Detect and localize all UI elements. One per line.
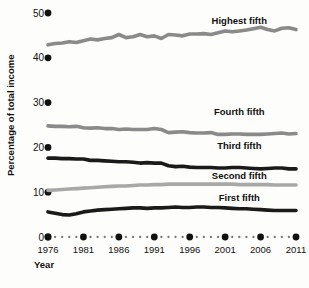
y-tick-dot <box>45 99 52 106</box>
x-minor-dot <box>288 236 290 238</box>
x-axis-tick-labels: 19761981198619911996200120062011 <box>37 244 306 255</box>
series-line <box>48 126 296 135</box>
x-minor-dot <box>181 236 183 238</box>
x-major-dot <box>151 234 158 241</box>
series-line <box>48 27 296 44</box>
x-axis-title: Year <box>34 259 54 270</box>
x-axis-dotted-baseline <box>45 234 300 241</box>
series-label: Third fifth <box>217 140 262 151</box>
x-minor-dot <box>196 236 198 238</box>
x-minor-dot <box>252 236 254 238</box>
x-minor-dot <box>111 236 113 238</box>
x-minor-dot <box>167 236 169 238</box>
y-axis-title: Percentage of total income <box>5 55 16 176</box>
x-minor-dot <box>267 236 269 238</box>
series-label: Fourth fifth <box>214 106 265 117</box>
series-label: Highest fifth <box>212 15 268 26</box>
x-major-dot <box>257 234 264 241</box>
x-major-dot <box>293 234 300 241</box>
x-major-dot <box>80 234 87 241</box>
x-minor-dot <box>210 236 212 238</box>
series-line <box>48 158 296 169</box>
x-tick-label: 1981 <box>73 244 94 255</box>
x-minor-dot <box>61 236 63 238</box>
x-tick-label: 2001 <box>215 244 236 255</box>
x-minor-dot <box>231 236 233 238</box>
series-line <box>48 184 296 190</box>
x-tick-label: 2011 <box>286 244 306 255</box>
x-minor-dot <box>104 236 106 238</box>
x-minor-dot <box>146 236 148 238</box>
x-minor-dot <box>245 236 247 238</box>
y-tick-dot <box>45 10 52 17</box>
series-labels-group: Highest fifthFourth fifthThird fifthSeco… <box>212 15 268 203</box>
x-minor-dot <box>174 236 176 238</box>
series-label: First fifth <box>219 192 260 203</box>
x-minor-dot <box>274 236 276 238</box>
x-minor-dot <box>238 236 240 238</box>
x-minor-dot <box>160 236 162 238</box>
x-minor-dot <box>217 236 219 238</box>
x-tick-label: 2006 <box>250 244 271 255</box>
y-tick-dot <box>45 144 52 151</box>
x-major-dot <box>186 234 193 241</box>
x-minor-dot <box>75 236 77 238</box>
x-tick-label: 1991 <box>144 244 165 255</box>
x-major-dot <box>115 234 122 241</box>
x-tick-label: 1996 <box>179 244 200 255</box>
y-tick-label: 0 <box>38 232 44 243</box>
y-tick-dot <box>45 54 52 61</box>
x-tick-label: 1986 <box>108 244 129 255</box>
x-minor-dot <box>54 236 56 238</box>
y-tick-label: 20 <box>33 142 45 153</box>
y-tick-label: 10 <box>33 187 45 198</box>
x-minor-dot <box>139 236 141 238</box>
chart-canvas: Percentage of total income 50403020100 1… <box>0 0 309 288</box>
x-minor-dot <box>68 236 70 238</box>
x-major-dot <box>45 234 52 241</box>
x-minor-dot <box>89 236 91 238</box>
x-major-dot <box>222 234 229 241</box>
series-line <box>48 207 296 215</box>
x-minor-dot <box>281 236 283 238</box>
y-tick-label: 30 <box>33 97 45 108</box>
y-tick-label: 40 <box>33 52 45 63</box>
x-minor-dot <box>132 236 134 238</box>
x-minor-dot <box>96 236 98 238</box>
x-minor-dot <box>203 236 205 238</box>
x-tick-label: 1976 <box>37 244 58 255</box>
series-label: Second fifth <box>212 170 267 181</box>
series-lines-group <box>48 27 296 215</box>
income-distribution-chart: Percentage of total income 50403020100 1… <box>0 0 309 288</box>
x-minor-dot <box>125 236 127 238</box>
y-tick-label: 50 <box>33 8 45 19</box>
